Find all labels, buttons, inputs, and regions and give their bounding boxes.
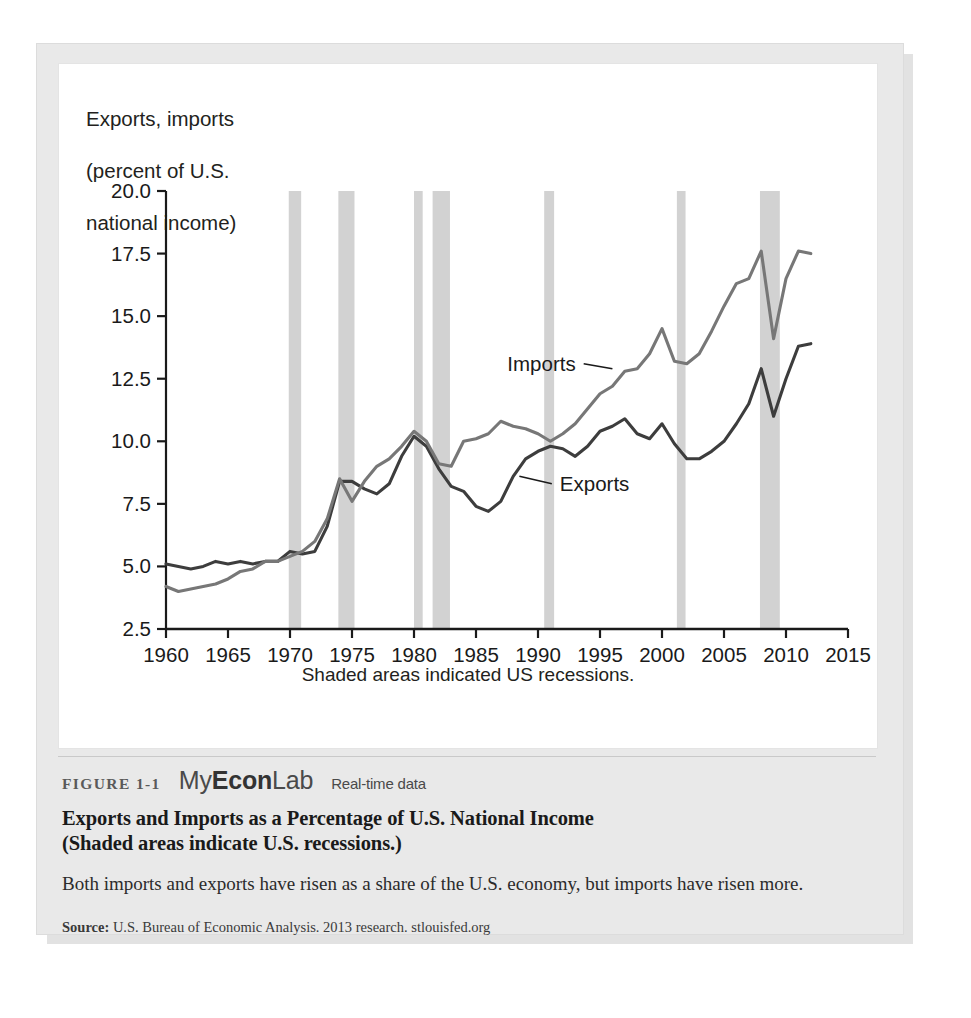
recession-band	[414, 191, 423, 629]
myeconlab-my: My	[179, 766, 212, 794]
caption-header-row: FIGURE 1-1 MyEconLab Real-time data	[58, 766, 876, 795]
y-axis-tick-label: 15.0	[111, 304, 151, 327]
recession-band	[289, 191, 301, 629]
annotation-leader-line	[584, 364, 613, 369]
x-axis-tick-label: 1985	[453, 643, 499, 666]
y-axis-tick-label: 5.0	[123, 554, 152, 577]
recession-band	[433, 191, 450, 629]
y-axis-tick-label: 20.0	[111, 179, 151, 202]
figure-title-line-2: (Shaded areas indicate U.S. recessions.)	[62, 831, 876, 856]
chart-footnote: Shaded areas indicated US recessions.	[59, 664, 877, 686]
myeconlab-econ: Econ	[212, 766, 272, 794]
figure-source: Source: U.S. Bureau of Economic Analysis…	[58, 919, 876, 936]
figure-description: Both imports and exports have risen as a…	[58, 870, 862, 897]
series-line-imports	[166, 251, 811, 591]
y-axis-tick-label: 2.5	[123, 617, 152, 640]
recession-band	[544, 191, 554, 629]
source-text: U.S. Bureau of Economic Analysis. 2013 r…	[113, 919, 490, 935]
x-axis-tick-label: 1975	[329, 643, 375, 666]
caption-divider	[58, 756, 876, 757]
x-axis-tick-label: 2000	[639, 643, 685, 666]
figure-title-line-1: Exports and Imports as a Percentage of U…	[62, 806, 876, 831]
myeconlab-logo: MyEconLab	[179, 766, 313, 795]
recession-band	[677, 191, 686, 629]
x-axis-tick-label: 2005	[701, 643, 747, 666]
myeconlab-lab: Lab	[272, 766, 313, 794]
figure-title: Exports and Imports as a Percentage of U…	[58, 806, 876, 856]
x-axis-tick-label: 1965	[205, 643, 251, 666]
x-axis-tick-label: 1990	[515, 643, 561, 666]
series-label-exports: Exports	[560, 472, 630, 495]
series-line-exports	[166, 344, 811, 569]
chart-card: Exports, imports (percent of U.S. nation…	[58, 63, 878, 749]
x-axis-tick-label: 2010	[763, 643, 809, 666]
series-label-imports: Imports	[507, 352, 575, 375]
x-axis-tick-label: 2015	[825, 643, 871, 666]
y-axis-tick-label: 12.5	[111, 367, 151, 390]
recession-band	[338, 191, 354, 629]
realtime-data-label: Real-time data	[331, 775, 426, 792]
x-axis-tick-label: 1970	[267, 643, 313, 666]
x-axis-tick-label: 1995	[577, 643, 623, 666]
line-chart-svg: 2.55.07.510.012.515.017.520.019601965197…	[59, 64, 877, 748]
figure-caption-block: FIGURE 1-1 MyEconLab Real-time data Expo…	[58, 756, 876, 936]
y-axis-tick-label: 7.5	[123, 492, 152, 515]
figure-number: FIGURE 1-1	[62, 775, 161, 793]
y-axis-tick-label: 10.0	[111, 429, 151, 452]
figure-panel: Exports, imports (percent of U.S. nation…	[36, 43, 904, 935]
y-axis-tick-label: 17.5	[111, 242, 151, 265]
x-axis-tick-label: 1960	[143, 643, 189, 666]
source-label: Source:	[62, 919, 109, 935]
x-axis-tick-label: 1980	[391, 643, 437, 666]
plot-area: 2.55.07.510.012.515.017.520.019601965197…	[59, 64, 877, 748]
